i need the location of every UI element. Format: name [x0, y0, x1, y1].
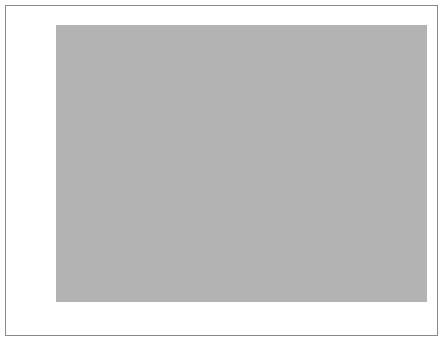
data-overlay	[56, 25, 427, 302]
plot-area	[56, 25, 427, 302]
chart-frame	[5, 5, 438, 336]
